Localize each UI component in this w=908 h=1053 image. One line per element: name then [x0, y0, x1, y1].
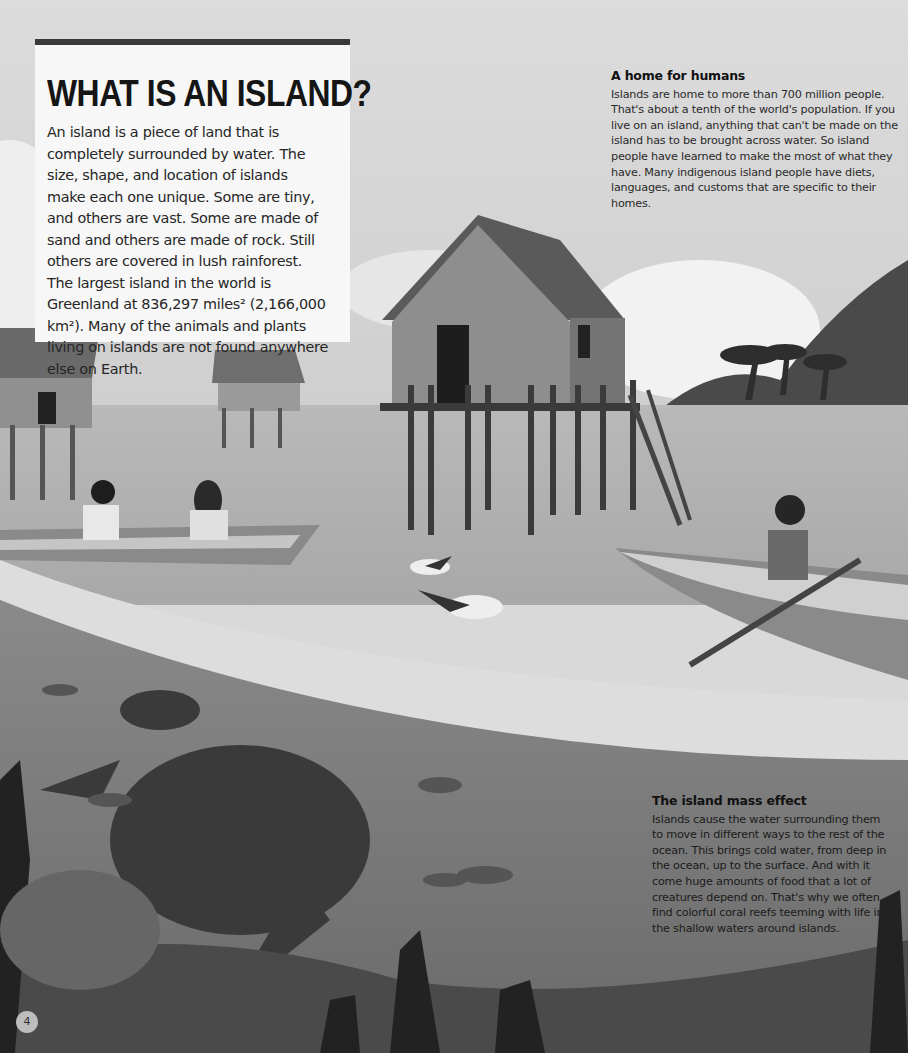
sidebar-heading: A home for humans: [611, 68, 907, 84]
sidebar-paragraph: Islands are home to more than 700 millio…: [611, 87, 907, 212]
sidebar-home-for-humans: A home for humans Islands are home to mo…: [611, 68, 907, 211]
sidebar-island-mass-effect: The island mass effect Islands cause the…: [652, 793, 892, 936]
intro-panel: WHAT IS AN ISLAND? An island is a piece …: [35, 39, 350, 342]
page-number: 4: [16, 1011, 38, 1033]
intro-paragraph: An island is a piece of land that is com…: [47, 122, 330, 380]
sidebar-paragraph: Islands cause the water surrounding them…: [652, 812, 892, 937]
page-title: WHAT IS AN ISLAND?: [47, 75, 290, 112]
sidebar-heading: The island mass effect: [652, 793, 892, 809]
